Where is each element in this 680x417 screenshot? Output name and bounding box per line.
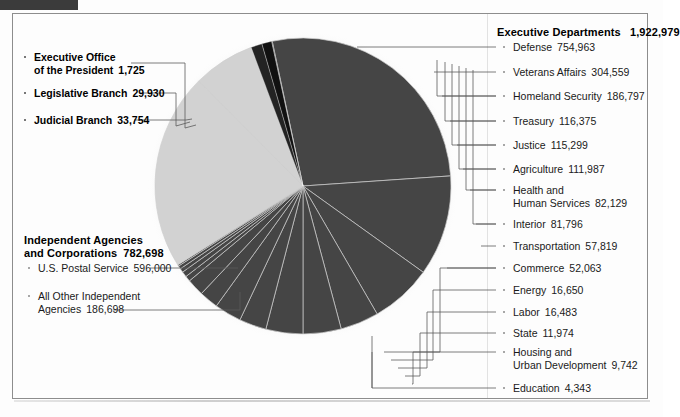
- right-column-header-label: Executive Departments: [497, 26, 621, 38]
- right-legend-item[interactable]: Energy16,650: [513, 284, 583, 297]
- pie-slice: [272, 38, 450, 186]
- right-column-header: Executive Departments 1,922,979: [497, 26, 680, 39]
- independent-legend-value: 186,698: [81, 303, 124, 315]
- right-legend-item[interactable]: Labor16,483: [513, 306, 577, 319]
- right-legend-item[interactable]: Commerce52,063: [513, 262, 601, 275]
- right-legend-bullet: [503, 46, 505, 48]
- right-legend-item[interactable]: State11,974: [513, 327, 574, 340]
- right-legend-bullet: [503, 387, 505, 389]
- right-legend-item[interactable]: Agriculture111,987: [513, 163, 605, 176]
- right-legend-bullet: [503, 223, 505, 225]
- right-legend-label: Commerce: [513, 262, 564, 274]
- independent-header-line1: Independent Agencies: [24, 234, 143, 246]
- right-legend-bullet: [503, 71, 505, 73]
- right-legend-label-line2: Human Services: [513, 197, 590, 209]
- independent-legend-item[interactable]: All Other IndependentAgencies186,698: [38, 290, 178, 316]
- right-legend-value: 57,819: [580, 240, 617, 252]
- right-legend-bullet: [503, 168, 505, 170]
- right-legend-label: Interior: [513, 218, 546, 230]
- right-legend-label-line2: Urban Development: [513, 359, 606, 371]
- right-legend-value: 4,343: [560, 382, 591, 394]
- right-legend-item[interactable]: Treasury116,375: [513, 115, 596, 128]
- independent-agencies-header: Independent Agencies and Corporations782…: [24, 234, 194, 260]
- right-legend-label: Labor: [513, 306, 540, 318]
- independent-legend-bullet: [28, 267, 30, 269]
- right-legend-item[interactable]: Justice115,299: [513, 139, 588, 152]
- right-legend-value: 16,650: [546, 284, 583, 296]
- right-legend-value: 52,063: [564, 262, 601, 274]
- right-legend-value: 115,299: [546, 139, 588, 151]
- left-branch-value: 33,754: [112, 114, 149, 126]
- right-legend-label: Agriculture: [513, 163, 563, 175]
- leader-line: [466, 68, 496, 190]
- right-legend-label: Housing and: [513, 346, 572, 358]
- right-legend-item[interactable]: Homeland Security186,797: [513, 90, 645, 103]
- leader-line: [372, 352, 496, 388]
- independent-legend-label: U.S. Postal Service: [38, 262, 128, 274]
- right-legend-value: 754,963: [552, 41, 595, 53]
- right-legend-label: Defense: [513, 41, 552, 53]
- right-legend-label: Transportation: [513, 240, 580, 252]
- independent-legend-item[interactable]: U.S. Postal Service596,000: [38, 262, 171, 275]
- right-legend-item[interactable]: Veterans Affairs304,559: [513, 66, 629, 79]
- left-branch-bullet: [24, 119, 26, 121]
- right-column-header-value: 1,922,979: [624, 26, 680, 38]
- right-legend-label: Education: [513, 382, 560, 394]
- right-legend-value: 9,742: [606, 359, 637, 371]
- right-legend-item[interactable]: Interior81,796: [513, 218, 583, 231]
- left-branch-value: 1,725: [113, 64, 144, 76]
- right-legend-value: 11,974: [538, 327, 574, 339]
- independent-legend-label: All Other Independent: [38, 290, 140, 302]
- right-legend-bullet: [503, 267, 505, 269]
- right-legend-label: Veterans Affairs: [513, 66, 586, 78]
- right-legend-value: 304,559: [586, 66, 629, 78]
- left-branch-label: Judicial Branch: [34, 114, 112, 126]
- right-legend-item[interactable]: Housing andUrban Development9,742: [513, 346, 663, 372]
- left-branch-item[interactable]: Judicial Branch33,754: [34, 114, 149, 127]
- leader-line: [437, 60, 496, 96]
- independent-header-line2: and Corporations: [24, 247, 117, 259]
- right-legend-value: 186,797: [602, 90, 645, 102]
- right-legend-label: State: [513, 327, 538, 339]
- right-legend-label: Justice: [513, 139, 546, 151]
- right-legend-bullet: [503, 311, 505, 313]
- independent-header-value: 782,698: [117, 247, 163, 259]
- left-branch-label: Legislative Branch: [34, 87, 127, 99]
- right-legend-value: 16,483: [540, 306, 577, 318]
- right-legend-bullet: [503, 95, 505, 97]
- left-branch-item[interactable]: Executive Officeof the President1,725: [34, 51, 174, 77]
- leader-line: [405, 333, 496, 376]
- right-legend-label: Treasury: [513, 115, 554, 127]
- left-branch-item[interactable]: Legislative Branch29,930: [34, 87, 165, 100]
- right-legend-item[interactable]: Defense754,963: [513, 41, 595, 54]
- leader-line: [473, 70, 496, 224]
- left-branch-bullet: [24, 92, 26, 94]
- leader-line: [459, 66, 496, 169]
- left-branch-label-line2: of the President: [34, 64, 113, 76]
- right-legend-value: 82,129: [590, 197, 627, 209]
- independent-legend-value: 596,000: [128, 262, 171, 274]
- right-legend-label: Health and: [513, 184, 564, 196]
- right-legend-item[interactable]: Transportation57,819: [513, 240, 617, 253]
- left-branch-bullet: [24, 56, 26, 58]
- right-legend-item[interactable]: Education4,343: [513, 382, 591, 395]
- leader-line: [445, 62, 496, 121]
- right-legend-label: Homeland Security: [513, 90, 602, 102]
- right-legend-value: 111,987: [563, 163, 604, 175]
- right-legend-bullet: [503, 144, 505, 146]
- right-legend-bullet: [503, 332, 505, 334]
- left-branch-label: Executive Office: [34, 51, 116, 63]
- independent-legend-label-line2: Agencies: [38, 303, 81, 315]
- right-legend-item[interactable]: Health andHuman Services82,129: [513, 184, 663, 210]
- right-legend-value: 81,796: [546, 218, 583, 230]
- right-legend-bullet: [503, 189, 505, 191]
- right-legend-bullet: [503, 289, 505, 291]
- right-legend-bullet: [503, 351, 505, 353]
- left-branch-value: 29,930: [127, 87, 164, 99]
- right-legend-bullet: [503, 245, 505, 247]
- pie-slices-group: [155, 38, 451, 334]
- independent-legend-bullet: [28, 295, 30, 297]
- right-legend-value: 116,375: [554, 115, 596, 127]
- right-legend-label: Energy: [513, 284, 546, 296]
